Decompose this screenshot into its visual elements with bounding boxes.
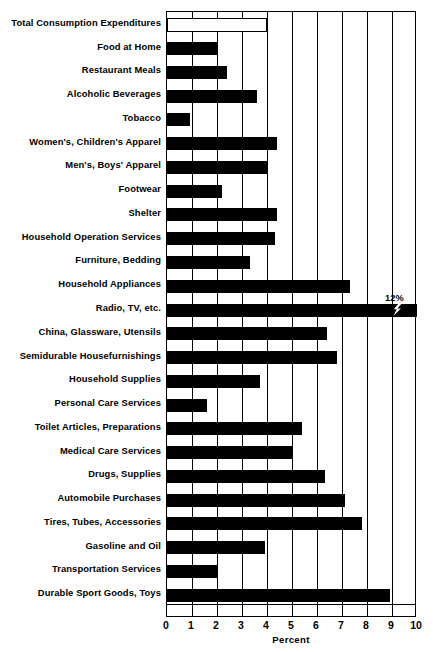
category-label: Shelter xyxy=(0,208,161,218)
plot-area: 12% xyxy=(166,11,416,605)
category-label: Food at Home xyxy=(0,42,161,52)
x-tick-1 xyxy=(192,605,193,617)
category-label: Toilet Articles, Preparations xyxy=(0,422,161,432)
x-tick-label-7: 7 xyxy=(329,619,353,631)
x-tick-label-3: 3 xyxy=(229,619,253,631)
x-tick-label-0: 0 xyxy=(154,619,178,631)
x-tick-7 xyxy=(342,605,343,617)
category-label: Household Supplies xyxy=(0,374,161,384)
x-tick-label-5: 5 xyxy=(279,619,303,631)
bar xyxy=(167,18,267,32)
category-label: Tobacco xyxy=(0,113,161,123)
x-tick-label-4: 4 xyxy=(254,619,278,631)
bar xyxy=(167,422,302,435)
bar xyxy=(167,446,292,459)
category-label: Footwear xyxy=(0,184,161,194)
x-tick-label-10: 10 xyxy=(404,619,428,631)
bar xyxy=(167,565,217,578)
category-label: Personal Care Services xyxy=(0,398,161,408)
x-tick-6 xyxy=(317,605,318,617)
category-label: Household Operation Services xyxy=(0,232,161,242)
category-label: Gasoline and Oil xyxy=(0,541,161,551)
bar xyxy=(167,304,417,317)
over-range-value-label: 12% xyxy=(385,293,404,303)
bar xyxy=(167,208,277,221)
bar xyxy=(167,327,327,340)
category-labels: Total Consumption ExpendituresFood at Ho… xyxy=(0,11,164,605)
category-label: Household Appliances xyxy=(0,279,161,289)
x-tick-label-8: 8 xyxy=(354,619,378,631)
category-label: Medical Care Services xyxy=(0,446,161,456)
category-label: Automobile Purchases xyxy=(0,493,161,503)
bar-chart: Total Consumption ExpendituresFood at Ho… xyxy=(0,0,433,652)
bar xyxy=(167,185,222,198)
x-tick-4 xyxy=(267,605,268,617)
bar xyxy=(167,161,267,174)
category-label: Semidurable Housefurnishings xyxy=(0,351,161,361)
x-tick-label-6: 6 xyxy=(304,619,328,631)
bar xyxy=(167,280,350,293)
category-label: China, Glassware, Utensils xyxy=(0,327,161,337)
x-tick-label-1: 1 xyxy=(179,619,203,631)
category-label: Transportation Services xyxy=(0,564,161,574)
category-label: Tires, Tubes, Accessories xyxy=(0,517,161,527)
bar xyxy=(167,137,277,150)
bar xyxy=(167,113,190,126)
bar xyxy=(167,470,325,483)
category-label: Drugs, Supplies xyxy=(0,469,161,479)
x-axis-title: Percent xyxy=(166,634,416,645)
category-label: Restaurant Meals xyxy=(0,65,161,75)
bar xyxy=(167,517,362,530)
bar xyxy=(167,494,345,507)
x-axis xyxy=(166,605,416,617)
bar xyxy=(167,232,275,245)
bar xyxy=(167,399,207,412)
category-label: Women's, Children's Apparel xyxy=(0,137,161,147)
x-tick-5 xyxy=(292,605,293,617)
bar xyxy=(167,589,390,602)
x-tick-label-2: 2 xyxy=(204,619,228,631)
x-tick-9 xyxy=(392,605,393,617)
category-label: Alcoholic Beverages xyxy=(0,89,161,99)
bar xyxy=(167,66,227,79)
bar xyxy=(167,541,265,554)
bar xyxy=(167,375,260,388)
bar xyxy=(167,351,337,364)
x-tick-2 xyxy=(217,605,218,617)
bar xyxy=(167,256,250,269)
category-label: Radio, TV, etc. xyxy=(0,303,161,313)
category-label: Total Consumption Expenditures xyxy=(0,18,161,28)
x-tick-8 xyxy=(367,605,368,617)
category-label: Furniture, Bedding xyxy=(0,255,161,265)
category-label: Men's, Boys' Apparel xyxy=(0,160,161,170)
x-tick-3 xyxy=(242,605,243,617)
bar xyxy=(167,90,257,103)
category-label: Durable Sport Goods, Toys xyxy=(0,588,161,598)
x-tick-label-9: 9 xyxy=(379,619,403,631)
bar xyxy=(167,42,217,55)
